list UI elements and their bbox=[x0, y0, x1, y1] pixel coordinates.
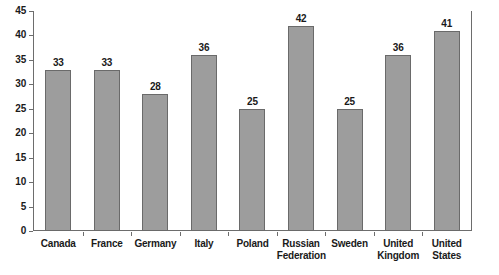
bar-slot: 36 bbox=[180, 11, 229, 231]
x-axis-category-label-line: Germany bbox=[131, 238, 180, 250]
bar[interactable] bbox=[239, 109, 265, 231]
bar[interactable] bbox=[434, 31, 460, 231]
y-axis-tick-mark bbox=[29, 84, 33, 85]
x-axis-category-label-line: Kingdom bbox=[374, 250, 423, 262]
bar-value-label: 41 bbox=[441, 18, 452, 29]
x-axis-category-label-line: Federation bbox=[277, 250, 326, 262]
x-axis-category-label: Poland bbox=[228, 238, 277, 250]
x-axis-tick-mark bbox=[325, 232, 326, 236]
y-axis-tick-mark bbox=[29, 231, 33, 232]
bar-slot: 36 bbox=[374, 11, 423, 231]
x-axis-tick-mark bbox=[374, 232, 375, 236]
bar-slot: 28 bbox=[131, 11, 180, 231]
x-axis-category-label-line: Sweden bbox=[325, 238, 374, 250]
x-axis-category-label-line: Canada bbox=[34, 238, 83, 250]
y-axis-tick-label: 20 bbox=[15, 126, 26, 139]
x-axis-tick-mark bbox=[131, 232, 132, 236]
x-axis-category-label: Germany bbox=[131, 238, 180, 250]
x-axis-category-label-line: Russian bbox=[277, 238, 326, 250]
bar-value-label: 33 bbox=[53, 57, 64, 68]
y-axis-tick-mark bbox=[29, 182, 33, 183]
x-axis-category-label: UnitedStates bbox=[422, 238, 471, 262]
bar[interactable] bbox=[337, 109, 363, 231]
y-axis-tick-mark bbox=[29, 60, 33, 61]
x-axis-category-label-line: France bbox=[83, 238, 132, 250]
bar[interactable] bbox=[45, 70, 71, 231]
bar-chart: 051015202530354045 333328362542253641 Ca… bbox=[0, 0, 499, 275]
x-axis-category-label: Sweden bbox=[325, 238, 374, 250]
bar-slot: 33 bbox=[83, 11, 132, 231]
bar-value-label: 33 bbox=[101, 57, 112, 68]
x-axis-category-label: UnitedKingdom bbox=[374, 238, 423, 262]
y-axis-tick-label: 30 bbox=[15, 77, 26, 90]
bar-slot: 33 bbox=[34, 11, 83, 231]
y-axis-tick-mark bbox=[29, 35, 33, 36]
x-axis-tick-mark bbox=[422, 232, 423, 236]
y-axis-tick-label: 25 bbox=[15, 102, 26, 115]
y-axis-tick-label: 15 bbox=[15, 151, 26, 164]
x-axis-category-label: Italy bbox=[180, 238, 229, 250]
x-axis-tick-mark bbox=[180, 232, 181, 236]
x-axis-tick-mark bbox=[83, 232, 84, 236]
y-axis-tick-mark bbox=[29, 158, 33, 159]
y-axis-tick-mark bbox=[29, 133, 33, 134]
x-axis-labels: CanadaFranceGermanyItalyPolandRussianFed… bbox=[34, 238, 471, 272]
y-axis-tick-label: 0 bbox=[21, 224, 26, 237]
bar-value-label: 25 bbox=[344, 96, 355, 107]
y-axis: 051015202530354045 bbox=[0, 0, 33, 275]
bar-value-label: 36 bbox=[199, 42, 210, 53]
x-axis-tick-mark bbox=[228, 232, 229, 236]
x-axis-tick-mark bbox=[277, 232, 278, 236]
bar-slot: 41 bbox=[422, 11, 471, 231]
bar[interactable] bbox=[191, 55, 217, 231]
y-axis-tick-mark bbox=[29, 109, 33, 110]
bar[interactable] bbox=[94, 70, 120, 231]
bar-value-label: 36 bbox=[393, 42, 404, 53]
x-axis-category-label-line: Italy bbox=[180, 238, 229, 250]
x-axis-category-label-line: States bbox=[422, 250, 471, 262]
y-axis-tick-mark bbox=[29, 207, 33, 208]
x-axis-category-label: RussianFederation bbox=[277, 238, 326, 262]
y-axis-tick-mark bbox=[29, 11, 33, 12]
x-axis-category-label-line: United bbox=[422, 238, 471, 250]
y-axis-tick-label: 40 bbox=[15, 28, 26, 41]
bar-value-label: 25 bbox=[247, 96, 258, 107]
bar[interactable] bbox=[142, 94, 168, 231]
y-axis-tick-label: 10 bbox=[15, 175, 26, 188]
bar-value-label: 42 bbox=[296, 13, 307, 24]
x-axis-category-label-line: United bbox=[374, 238, 423, 250]
x-axis-category-label: France bbox=[83, 238, 132, 250]
x-axis-ticks bbox=[34, 232, 471, 237]
x-axis-category-label: Canada bbox=[34, 238, 83, 250]
bar-slot: 25 bbox=[228, 11, 277, 231]
bar-slot: 25 bbox=[325, 11, 374, 231]
bars-layer: 333328362542253641 bbox=[34, 11, 471, 231]
bar[interactable] bbox=[288, 26, 314, 231]
y-axis-tick-label: 45 bbox=[15, 4, 26, 17]
x-axis-category-label-line: Poland bbox=[228, 238, 277, 250]
bar[interactable] bbox=[385, 55, 411, 231]
bar-slot: 42 bbox=[277, 11, 326, 231]
bar-value-label: 28 bbox=[150, 81, 161, 92]
y-axis-tick-label: 35 bbox=[15, 53, 26, 66]
y-axis-tick-label: 5 bbox=[21, 200, 26, 213]
